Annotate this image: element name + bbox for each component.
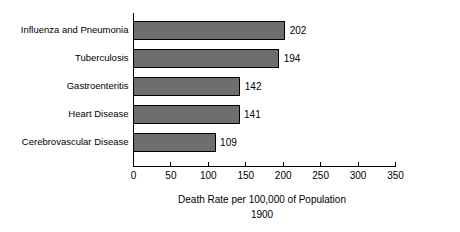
bar-value-label: 109 [220, 137, 237, 148]
bar-chart-figure: Influenza and PneumoniaTuberculosisGastr… [0, 0, 460, 232]
category-label: Influenza and Pneumonia [21, 24, 129, 35]
bar [134, 22, 285, 40]
bar [134, 50, 279, 68]
x-axis-subtitle-year: 1900 [251, 209, 274, 220]
tick-label: 350 [387, 170, 404, 181]
tick-label: 0 [131, 170, 137, 181]
bar [134, 106, 240, 124]
category-label: Gastroenteritis [67, 80, 129, 91]
category-label: Heart Disease [68, 108, 128, 119]
bar-value-label: 142 [245, 81, 262, 92]
chart-canvas: Influenza and PneumoniaTuberculosisGastr… [0, 0, 460, 232]
category-label: Tuberculosis [75, 52, 129, 63]
tick-label: 250 [312, 170, 329, 181]
category-label: Cerebrovascular Disease [22, 136, 129, 147]
tick-label: 100 [200, 170, 217, 181]
bar-value-label: 202 [290, 25, 307, 36]
tick-label: 200 [275, 170, 292, 181]
tick-label: 50 [165, 170, 177, 181]
bar-value-label: 141 [244, 109, 261, 120]
bar-value-label: 194 [284, 53, 301, 64]
bar [134, 134, 216, 152]
bar [134, 78, 240, 96]
x-axis-title: Death Rate per 100,000 of Population [178, 194, 346, 205]
tick-label: 300 [350, 170, 367, 181]
tick-label: 150 [237, 170, 254, 181]
